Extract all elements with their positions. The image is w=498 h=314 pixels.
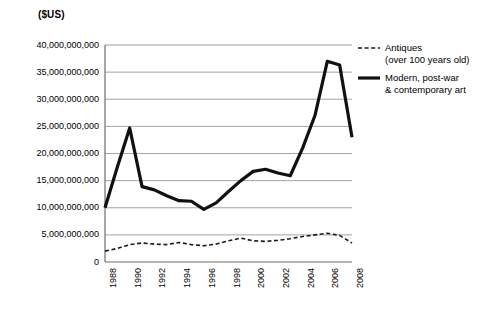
y-tick-label: 20,000,000,000 [0,149,99,158]
x-tick-label: 1988 [109,268,118,288]
y-tick-label: 25,000,000,000 [0,122,99,131]
chart-legend: Antiques (over 100 years old)Modern, pos… [358,42,494,102]
x-tick-label: 1994 [183,268,192,288]
gridlines [105,45,352,235]
legend-label: Modern, post-war & contemporary art [385,72,466,95]
chart-canvas [105,45,352,262]
y-tick-label: 5,000,000,000 [0,230,99,239]
series-line [105,61,352,209]
y-axis-tick-labels: 40,000,000,00035,000,000,00030,000,000,0… [0,45,99,262]
solid-line-icon [358,72,380,84]
x-tick-label: 2008 [356,268,365,288]
x-tick-label: 1992 [158,268,167,288]
y-tick-label: 10,000,000,000 [0,203,99,212]
legend-item: Modern, post-war & contemporary art [358,72,494,95]
x-axis-tick-labels: 1988199019921994199619982000200220042006… [105,262,352,312]
x-tick-label: 2004 [307,268,316,288]
y-tick-label: 40,000,000,000 [0,41,99,50]
y-tick-label: 30,000,000,000 [0,95,99,104]
data-series [105,61,352,251]
x-tick-label: 2000 [257,268,266,288]
series-line [105,233,352,251]
x-tick-label: 1998 [233,268,242,288]
chart-plot-area [105,45,352,262]
x-tick-label: 1996 [208,268,217,288]
legend-item: Antiques (over 100 years old) [358,42,494,65]
y-axis-unit-caption: ($US) [38,9,65,20]
dashed-line-icon [358,42,380,54]
x-tick-label: 1990 [134,268,143,288]
x-tick-label: 2006 [331,268,340,288]
y-tick-label: 15,000,000,000 [0,176,99,185]
legend-label: Antiques (over 100 years old) [385,42,469,65]
y-tick-label: 0 [0,258,99,267]
y-tick-label: 35,000,000,000 [0,68,99,77]
x-tick-label: 2002 [282,268,291,288]
